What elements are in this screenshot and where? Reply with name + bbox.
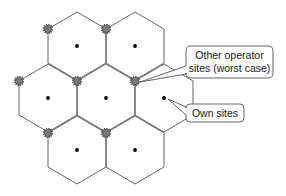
own-site-dot-icon	[46, 96, 50, 100]
other-operator-site-starburst-icon	[72, 76, 82, 86]
callouts-group: Other operator sites (worst case) Own si…	[140, 46, 273, 122]
own-site-dot-icon	[75, 148, 79, 152]
callout-label-line-1: Other operator	[195, 49, 264, 61]
own-site-dot-icon	[133, 44, 137, 48]
callout-own-sites: Own sites	[168, 99, 244, 122]
hex-cell-diagram: Other operator sites (worst case) Own si…	[0, 0, 286, 196]
other-operator-site-starburst-icon	[130, 76, 140, 86]
other-operator-site-starburst-icon	[43, 128, 53, 138]
own-site-dot-icon	[162, 96, 166, 100]
other-operator-site-starburst-icon	[43, 24, 53, 34]
callout-label: Own sites	[192, 107, 238, 119]
callout-label-line-2: sites (worst case)	[189, 62, 271, 74]
own-site-dot-icon	[133, 148, 137, 152]
other-operator-site-starburst-icon	[101, 24, 111, 34]
own-site-dot-icon	[75, 44, 79, 48]
own-site-dot-icon	[104, 96, 108, 100]
other-operator-site-starburst-icon	[14, 76, 24, 86]
callout-other-operator-sites: Other operator sites (worst case)	[140, 46, 273, 82]
other-operator-sites-group	[14, 24, 140, 138]
other-operator-site-starburst-icon	[101, 128, 111, 138]
